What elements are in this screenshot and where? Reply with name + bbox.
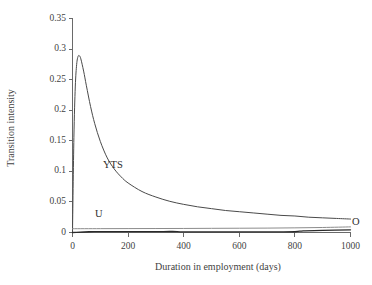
series-line-yts xyxy=(73,55,351,232)
y-axis-tick-label: 0.05 xyxy=(24,197,66,207)
y-axis-tick-label: 0.2 xyxy=(24,105,66,115)
chart-figure: 00.050.10.150.20.250.30.35 0200400600800… xyxy=(0,0,372,285)
axes-group xyxy=(73,19,351,233)
tick-marks-group xyxy=(69,19,351,237)
y-axis-title: Transition intensity xyxy=(5,89,16,167)
x-axis-tick-label: 200 xyxy=(121,242,135,252)
x-axis-tick-label: 800 xyxy=(288,242,302,252)
y-axis-tick-label: 0 xyxy=(24,228,66,238)
x-axis-tick-label: 600 xyxy=(232,242,246,252)
x-axis-tick-label: 0 xyxy=(70,242,75,252)
y-axis-tick-label: 0.3 xyxy=(24,44,66,54)
y-axis-tick-label: 0.15 xyxy=(24,136,66,146)
series-line-o xyxy=(73,227,351,229)
x-axis-tick-label: 1000 xyxy=(341,242,360,252)
y-axis-tick-label: 0.1 xyxy=(24,167,66,177)
x-axis-title: Duration in employment (days) xyxy=(155,261,281,272)
series-label-o: O xyxy=(352,217,360,228)
y-axis-tick-label: 0.35 xyxy=(24,14,66,24)
series-label-yts: YTS xyxy=(103,160,123,171)
y-axis-tick-label: 0.25 xyxy=(24,75,66,85)
series-label-u: U xyxy=(95,209,103,220)
x-axis-tick-label: 400 xyxy=(177,242,191,252)
data-series-group xyxy=(73,55,351,232)
